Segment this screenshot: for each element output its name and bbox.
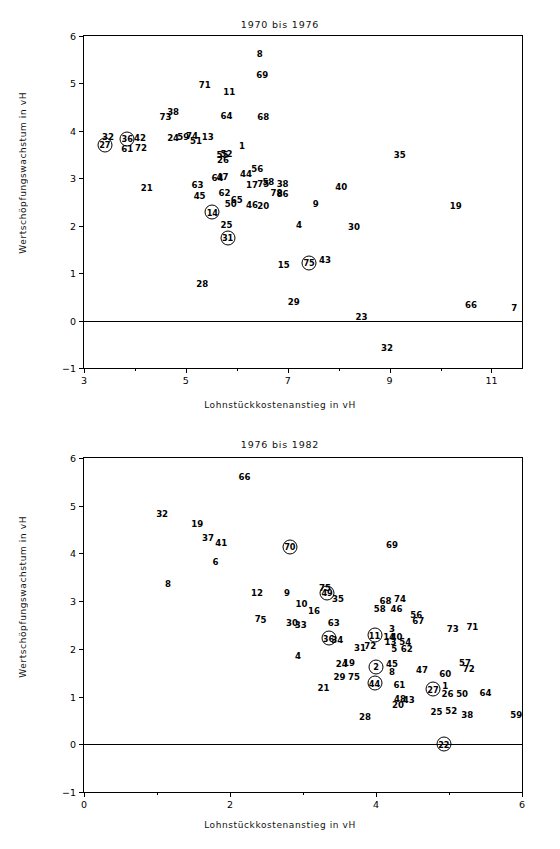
y-axis-tick-label: 0 xyxy=(70,315,76,326)
y-axis-tick-label: 1 xyxy=(70,691,76,702)
data-point-label: 16 xyxy=(308,606,320,615)
data-point-circled: 31 xyxy=(220,230,235,245)
y-axis-label: Wertschöpfungswachstum in vH xyxy=(18,92,28,254)
data-point-label: 25 xyxy=(221,220,233,229)
data-point-label: 86 xyxy=(277,190,289,199)
data-point-label: 62 xyxy=(219,188,231,197)
data-point-label: 72 xyxy=(463,665,475,674)
x-axis-tick-minor xyxy=(135,368,136,371)
data-point-label: 46 xyxy=(246,201,258,210)
x-axis-tick xyxy=(376,792,377,797)
data-point-label: 46 xyxy=(390,604,402,613)
data-point-label: 6 xyxy=(212,558,218,567)
x-axis-tick xyxy=(84,792,85,797)
x-axis-tick xyxy=(288,368,289,373)
x-axis-label: Lohnstückkostenanstieg in vH xyxy=(0,400,560,410)
data-point-label: 43 xyxy=(319,256,331,265)
y-axis-tick-label: 4 xyxy=(70,548,76,559)
data-point-label: 20 xyxy=(392,700,404,709)
y-axis-tick xyxy=(79,131,84,132)
y-axis-tick-label: 3 xyxy=(70,596,76,607)
data-point-circled: 27 xyxy=(425,682,440,697)
data-point-label: 8 xyxy=(165,580,171,589)
data-point-label: 64 xyxy=(480,688,492,697)
data-point-circled: 70 xyxy=(282,539,297,554)
data-point-label: 34 xyxy=(331,636,343,645)
data-point-label: 15 xyxy=(278,260,290,269)
y-axis-tick xyxy=(79,601,84,602)
data-point-label: 5 xyxy=(391,645,397,654)
data-point-label: 26 xyxy=(442,690,454,699)
y-axis-tick xyxy=(79,649,84,650)
data-point-label: 5 xyxy=(261,616,267,625)
data-point-label: 59 xyxy=(510,710,522,719)
data-point-label: 38 xyxy=(277,180,289,189)
data-point-label: 66 xyxy=(465,301,477,310)
data-point-circled: 75 xyxy=(302,255,317,270)
data-point-label: 8 xyxy=(389,667,395,676)
data-point-label: 43 xyxy=(403,696,415,705)
data-point-label: 47 xyxy=(416,666,428,675)
y-axis-tick-label: 2 xyxy=(70,220,76,231)
data-point-label: 71 xyxy=(199,81,211,90)
y-axis-tick xyxy=(79,83,84,84)
data-point-label: 69 xyxy=(256,71,268,80)
y-axis-tick-label: −1 xyxy=(62,363,76,374)
y-axis-tick xyxy=(79,697,84,698)
data-point-label: 73 xyxy=(447,625,459,634)
data-point-label: 50 xyxy=(456,690,468,699)
data-point-label: 42 xyxy=(134,134,146,143)
data-point-label: 32 xyxy=(156,510,168,519)
x-axis-tick-label: 3 xyxy=(81,375,87,386)
data-point-label: 75 xyxy=(257,180,269,189)
zero-baseline xyxy=(84,321,522,322)
y-axis-tick-label: 6 xyxy=(70,31,76,42)
data-point-label: 56 xyxy=(251,165,263,174)
data-point-label: 72 xyxy=(135,144,147,153)
data-point-label: 25 xyxy=(431,708,443,717)
plot-area: −101234563579118697111387364683227366142… xyxy=(83,35,523,369)
y-axis-tick-label: 5 xyxy=(70,78,76,89)
y-axis-tick xyxy=(79,226,84,227)
data-point-label: 28 xyxy=(196,279,208,288)
y-axis-tick xyxy=(79,458,84,459)
zero-baseline xyxy=(84,744,522,745)
y-axis-tick xyxy=(79,321,84,322)
data-point-circled: 14 xyxy=(205,205,220,220)
data-point-label: 38 xyxy=(461,710,473,719)
data-point-label: 50 xyxy=(225,200,237,209)
data-point-label: 35 xyxy=(394,150,406,159)
x-axis-tick-label: 5 xyxy=(183,375,189,386)
data-point-label: 1 xyxy=(239,142,245,151)
y-axis-tick xyxy=(79,744,84,745)
data-point-label: 66 xyxy=(239,473,251,482)
x-axis-tick-label: 9 xyxy=(387,375,393,386)
data-point-label: 51 xyxy=(190,137,202,146)
data-point-label: 9 xyxy=(313,200,319,209)
data-point-label: 21 xyxy=(317,684,329,693)
data-point-circled: 22 xyxy=(436,737,451,752)
data-point-label: 23 xyxy=(356,313,368,322)
data-point-label: 32 xyxy=(381,344,393,353)
data-point-label: 61 xyxy=(121,145,133,154)
x-axis-tick-minor xyxy=(441,368,442,371)
x-axis-tick-label: 6 xyxy=(519,799,525,810)
data-point-label: 33 xyxy=(295,621,307,630)
data-point-label: 40 xyxy=(335,183,347,192)
data-point-label: 11 xyxy=(223,88,235,97)
data-point-label: 68 xyxy=(257,112,269,121)
chart-title: 1970 bis 1976 xyxy=(0,19,560,30)
data-point-label: 28 xyxy=(359,712,371,721)
x-axis-tick xyxy=(84,368,85,373)
data-point-label: 9 xyxy=(284,589,290,598)
data-point-label: 19 xyxy=(343,659,355,668)
data-point-label: 75 xyxy=(348,672,360,681)
data-point-circled: 44 xyxy=(367,676,382,691)
x-axis-tick-minor xyxy=(339,368,340,371)
y-axis-tick-label: 0 xyxy=(70,739,76,750)
data-point-label: 17 xyxy=(246,181,258,190)
data-point-label: 35 xyxy=(332,594,344,603)
x-axis-tick-label: 7 xyxy=(285,375,291,386)
data-point-label: 61 xyxy=(393,680,405,689)
data-point-label: 19 xyxy=(450,201,462,210)
